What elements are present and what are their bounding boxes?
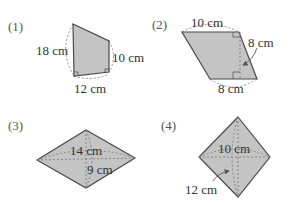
figure-4-square: (4) 10 cm 12 cm [161, 117, 270, 197]
figure-4-number: (4) [161, 118, 176, 133]
figure-1-bottom-label: 12 cm [74, 81, 106, 96]
figure-3-horizontal-label: 14 cm [70, 143, 102, 158]
figure-1-trapezoid: (1) 18 cm 10 cm 12 cm [8, 19, 144, 96]
figure-4-vertical-label: 12 cm [185, 182, 217, 197]
figure-3-rhombus: (3) 14 cm 9 cm [8, 118, 135, 188]
figure-1-number: (1) [8, 19, 23, 34]
figure-4-horizontal-label: 10 cm [218, 141, 250, 156]
figure-3-vertical-label: 9 cm [87, 162, 113, 177]
trapezoid-shape [73, 24, 109, 76]
figure-2-parallelogram: (2) 10 cm 8 cm 8 cm [152, 15, 274, 96]
figure-2-bottom-label: 8 cm [218, 81, 244, 96]
diagram-canvas: (1) 18 cm 10 cm 12 cm (2) 10 cm 8 cm 8 c… [0, 0, 293, 203]
figure-2-number: (2) [152, 17, 167, 32]
figure-1-right-label: 10 cm [112, 50, 144, 65]
parallelogram-shape [182, 32, 257, 79]
figure-2-top-label: 10 cm [191, 15, 223, 30]
figure-1-left-label: 18 cm [36, 43, 68, 58]
figure-2-height-label: 8 cm [248, 35, 274, 50]
figure-3-number: (3) [8, 118, 23, 133]
